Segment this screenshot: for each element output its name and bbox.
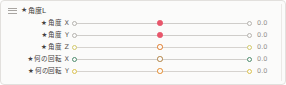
panel-right-divider (281, 4, 282, 81)
slider-handle-mid[interactable] (157, 56, 163, 62)
axis-label: X (65, 56, 69, 63)
range-slider[interactable] (73, 29, 251, 41)
panel-header: ★ 角度L (7, 5, 279, 16)
slider-value[interactable]: 0.0 (255, 44, 279, 51)
range-slider[interactable] (73, 53, 251, 65)
slider-handle-left[interactable] (72, 33, 77, 38)
star-icon: ★ (41, 20, 47, 27)
property-name-text: 何の回転 (35, 68, 62, 75)
slider-handle-right[interactable] (247, 57, 252, 62)
grip-handle-icon[interactable] (8, 8, 17, 14)
slider-handle-left[interactable] (72, 21, 77, 26)
slider-row: ★何の回転Y0.0 (7, 65, 279, 77)
angle-properties-panel: ★ 角度L ★角度X0.0★角度Y0.0★角度Z0.0★何の回転X0.0★何の回… (0, 0, 286, 85)
slider-handle-right[interactable] (247, 45, 252, 50)
property-name-text: 角度 (48, 44, 62, 51)
property-name-text: 角度 (48, 32, 62, 39)
star-icon: ★ (28, 56, 34, 63)
axis-label: X (65, 20, 69, 27)
axis-label: Y (65, 32, 69, 39)
slider-row-label: ★角度Z (7, 44, 73, 51)
slider-row-label: ★角度X (7, 20, 73, 27)
slider-value[interactable]: 0.0 (255, 32, 279, 39)
slider-handle-left[interactable] (72, 45, 77, 50)
slider-row: ★角度Z0.0 (7, 41, 279, 53)
property-name-text: 何の回転 (34, 56, 61, 63)
slider-handle-mid[interactable] (157, 20, 163, 26)
slider-row-list: ★角度X0.0★角度Y0.0★角度Z0.0★何の回転X0.0★何の回転Y0.0 (7, 17, 279, 77)
slider-row-label: ★何の回転X (7, 56, 73, 63)
slider-handle-left[interactable] (72, 69, 77, 74)
axis-label: Z (65, 44, 69, 51)
slider-handle-right[interactable] (247, 21, 252, 26)
slider-handle-mid[interactable] (157, 68, 163, 74)
range-slider[interactable] (73, 17, 251, 29)
star-icon: ★ (41, 44, 47, 51)
slider-value[interactable]: 0.0 (255, 56, 279, 63)
slider-value[interactable]: 0.0 (255, 20, 279, 27)
star-icon: ★ (21, 7, 27, 14)
range-slider[interactable] (73, 41, 251, 53)
slider-row: ★角度Y0.0 (7, 29, 279, 41)
slider-row-label: ★角度Y (7, 32, 73, 39)
star-icon: ★ (28, 68, 34, 75)
slider-handle-right[interactable] (247, 33, 252, 38)
range-slider[interactable] (73, 65, 251, 77)
slider-value[interactable]: 0.0 (255, 68, 279, 75)
slider-row: ★何の回転X0.0 (7, 53, 279, 65)
slider-handle-mid[interactable] (157, 32, 163, 38)
slider-handle-right[interactable] (247, 69, 252, 74)
property-name-text: 角度 (48, 20, 62, 27)
panel-title: 角度L (28, 7, 45, 15)
slider-row-label: ★何の回転Y (7, 68, 73, 75)
slider-row: ★角度X0.0 (7, 17, 279, 29)
slider-handle-mid[interactable] (157, 44, 163, 50)
star-icon: ★ (42, 32, 48, 39)
axis-label: Y (65, 68, 69, 75)
slider-handle-left[interactable] (72, 57, 77, 62)
